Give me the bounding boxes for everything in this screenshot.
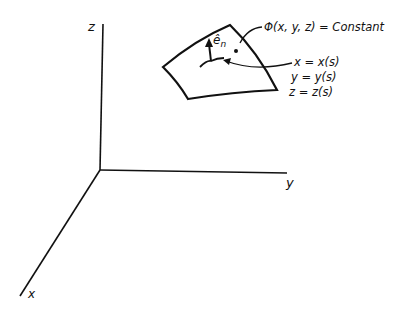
leader-curve: [226, 61, 292, 67]
coordinate-axes: [20, 24, 287, 296]
leader-arrowhead-icon: [223, 58, 231, 65]
diagram-canvas: z y x ên Φ(x, y, z) = Constant x = x(s) …: [0, 0, 401, 315]
normal-vector: [205, 38, 213, 61]
surface-point: [234, 49, 238, 53]
y-axis: [100, 170, 287, 173]
z-axis: [100, 24, 103, 170]
surface-curve: [200, 58, 224, 67]
z-axis-label: z: [87, 19, 96, 34]
surface-equation: Φ(x, y, z) = Constant: [264, 20, 385, 34]
x-axis: [20, 170, 100, 296]
curve-equation-y: y = y(s): [290, 70, 337, 84]
normal-label: ên: [213, 33, 226, 49]
curve-equation-x: x = x(s): [293, 55, 340, 69]
curve-equation-z: z = z(s): [288, 85, 333, 99]
x-axis-label: x: [27, 287, 36, 301]
y-axis-label: y: [285, 175, 294, 190]
arrowhead-icon: [205, 38, 213, 47]
